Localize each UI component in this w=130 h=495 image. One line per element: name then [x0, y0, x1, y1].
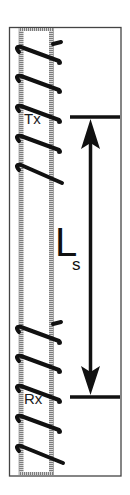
- receiver-coil: Rx: [17, 322, 63, 463]
- sonde-tube: [19, 28, 54, 475]
- spacing-subscript: s: [72, 255, 81, 274]
- tube-top-cap: [19, 28, 54, 31]
- sonde-diagram: Tx Rx L s: [0, 0, 130, 495]
- rx-label: Rx: [24, 390, 43, 407]
- spacing-dimension: L s: [55, 117, 120, 397]
- tx-label: Tx: [24, 110, 41, 127]
- tube-left-wall: [19, 28, 24, 475]
- tube-right-wall: [49, 28, 54, 475]
- tube-bottom-cap: [19, 472, 54, 475]
- transmitter-coil: Tx: [17, 42, 62, 183]
